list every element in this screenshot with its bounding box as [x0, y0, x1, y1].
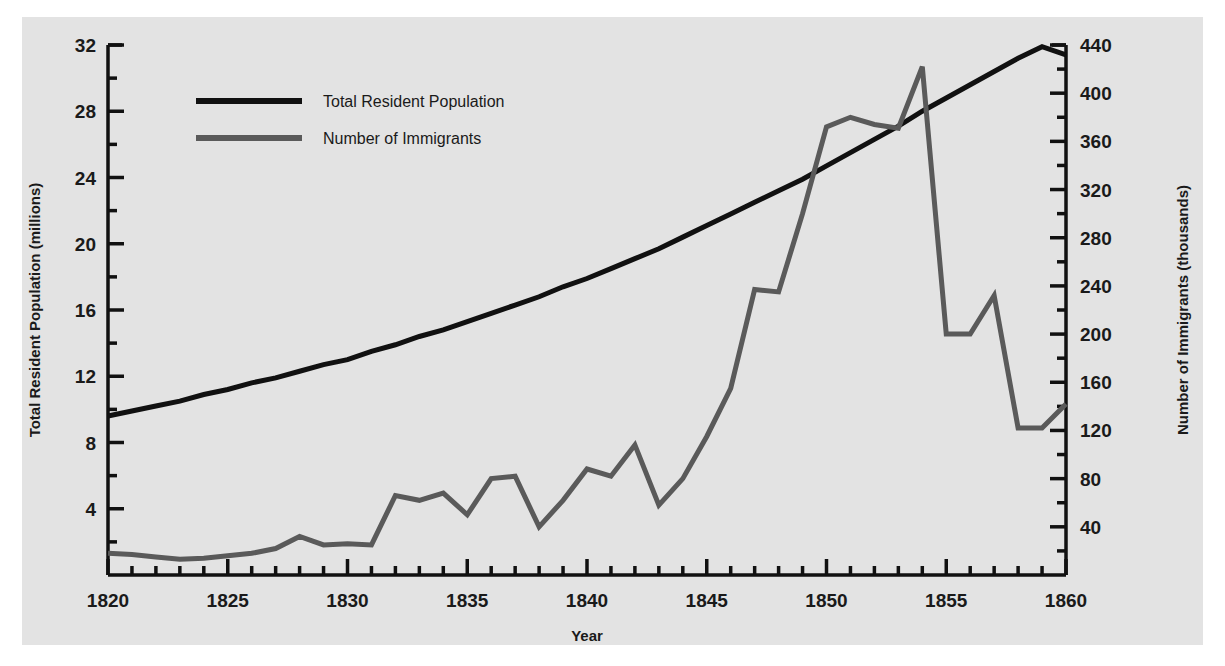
y-tick-label-left: 16	[75, 300, 96, 321]
y-axis-title-right: Number of Immigrants (thousands)	[1174, 185, 1191, 435]
y-tick-label-right: 120	[1080, 420, 1112, 441]
x-tick-label: 1825	[207, 590, 250, 611]
y-tick-label-right: 160	[1080, 372, 1112, 393]
y-tick-label-right: 320	[1080, 180, 1112, 201]
y-tick-label-right: 240	[1080, 276, 1112, 297]
x-axis-title: Year	[571, 627, 603, 644]
legend-label-population: Total Resident Population	[323, 93, 504, 110]
x-tick-label: 1850	[805, 590, 847, 611]
y-axis-title-left: Total Resident Population (millions)	[26, 183, 43, 438]
y-tick-label-right: 400	[1080, 83, 1112, 104]
x-tick-label: 1830	[326, 590, 368, 611]
y-tick-label-left: 32	[75, 35, 96, 56]
x-tick-label: 1860	[1045, 590, 1087, 611]
y-tick-label-right: 80	[1080, 469, 1101, 490]
x-tick-label: 1840	[566, 590, 608, 611]
y-tick-label-right: 200	[1080, 324, 1112, 345]
x-tick-label: 1835	[446, 590, 489, 611]
chart-canvas: 4812162024283240801201602002402803203604…	[0, 0, 1225, 666]
figure-container: 4812162024283240801201602002402803203604…	[0, 0, 1225, 666]
y-tick-label-right: 360	[1080, 131, 1112, 152]
y-tick-label-left: 4	[85, 499, 96, 520]
x-tick-label: 1820	[87, 590, 129, 611]
y-tick-label-right: 40	[1080, 517, 1101, 538]
x-tick-label: 1845	[686, 590, 729, 611]
y-tick-label-left: 20	[75, 234, 96, 255]
y-tick-label-right: 440	[1080, 35, 1112, 56]
y-tick-label-right: 280	[1080, 228, 1112, 249]
y-tick-label-left: 8	[85, 433, 96, 454]
y-tick-label-left: 24	[75, 168, 97, 189]
legend-label-immigrants: Number of Immigrants	[323, 130, 481, 147]
y-tick-label-left: 28	[75, 101, 96, 122]
x-tick-label: 1855	[925, 590, 968, 611]
y-tick-label-left: 12	[75, 366, 96, 387]
